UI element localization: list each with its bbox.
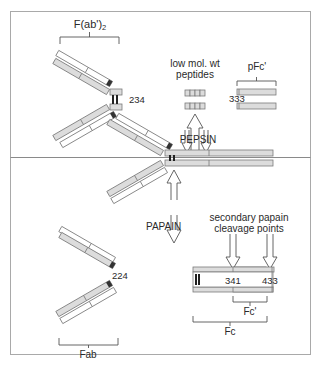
diagram-canvas xyxy=(0,0,321,370)
cleavage-points-label: cleavage points xyxy=(214,224,284,234)
residue-333-label: 333 xyxy=(229,94,245,104)
ig-cleavage-diagram: F(ab')2 234 low mol. wt peptides pFc' 33… xyxy=(0,0,321,370)
fc-label: Fc xyxy=(224,327,235,337)
low-mol-wt-label: low mol. wt xyxy=(170,59,219,69)
fab2-label: F(ab')2 xyxy=(74,19,107,32)
fab-label: Fab xyxy=(79,350,96,360)
hinge-disulfide xyxy=(116,95,118,104)
pepsin-label: PEPSIN xyxy=(180,135,217,145)
papain-label: PAPAIN xyxy=(146,222,181,232)
hinge-disulfide xyxy=(112,95,114,104)
residue-224-label: 224 xyxy=(112,271,128,281)
fc-prime-label: Fc' xyxy=(243,307,256,317)
hinge-stub-lower xyxy=(110,104,122,110)
hinge-stub-upper xyxy=(110,89,122,95)
residue-341-label: 341 xyxy=(225,276,241,286)
peptides-label: peptides xyxy=(176,70,214,80)
secondary-papain-label: secondary papain xyxy=(210,213,289,223)
residue-433-label: 433 xyxy=(262,276,278,286)
pfc-label: pFc' xyxy=(248,62,267,72)
residue-234-label: 234 xyxy=(129,95,145,105)
disulfide-bond xyxy=(198,274,200,285)
disulfide-bond xyxy=(195,274,197,285)
